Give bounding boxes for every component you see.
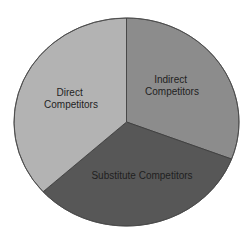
label-substitute-competitors: Substitute Competitors (91, 170, 192, 181)
label-indirect-line-2: Competitors (145, 86, 199, 97)
label-substitute-line-1: Substitute Competitors (91, 170, 192, 181)
pie-chart: Indirect Competitors Substitute Competit… (0, 0, 252, 239)
label-direct-line-2: Competitors (44, 99, 98, 110)
pie-slices (14, 18, 239, 226)
label-direct-line-1: Direct (57, 87, 83, 98)
label-indirect-line-1: Indirect (154, 74, 187, 85)
